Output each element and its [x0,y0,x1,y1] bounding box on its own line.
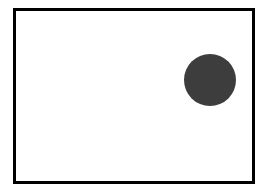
filled-circle [184,54,236,106]
